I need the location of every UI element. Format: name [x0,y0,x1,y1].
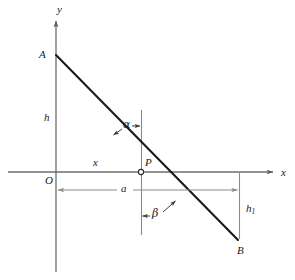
y-axis-label: y [57,4,62,15]
angle-alpha-label: α [123,119,130,130]
diagram-canvas [0,0,295,280]
point-p-marker [138,169,143,174]
point-a-label: A [39,49,46,60]
point-b-label: B [237,245,244,256]
dimension-h1-subscript: 1 [252,207,256,216]
dimension-h1-base: h [246,202,252,214]
dimension-a-label: a [121,183,127,194]
angle-beta-leaders [143,201,176,216]
angle-beta-label: β [152,208,158,219]
dimension-h1-label: h1 [246,203,255,214]
origin-label: O [45,175,53,186]
point-p-label: P [145,157,152,168]
dimension-x-label: x [93,157,98,168]
beta-leader-to-segment [163,201,176,212]
dimension-h-label: h [44,112,50,123]
segment-a-to-b [56,55,238,240]
alpha-leader-to-segment [114,129,123,135]
x-axis-label: x [281,167,286,178]
geometry-figure: y x O A P B h x a h1 α β [0,0,295,280]
